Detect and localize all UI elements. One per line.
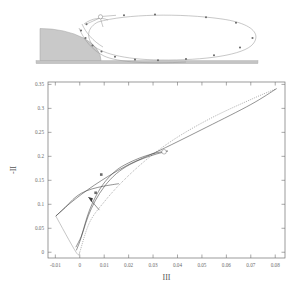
streamline-sample-markers <box>80 13 254 61</box>
data-marker-filled-square <box>100 173 103 176</box>
flow-field-inset <box>0 0 303 78</box>
y-tick-label: 0.2 <box>38 153 45 159</box>
x-tick-label: 0.02 <box>124 262 133 268</box>
vortex-spoke-down <box>101 19 103 27</box>
curve-trajectory-return-fan <box>56 184 119 216</box>
figure-root: -0.0100.010.020.030.040.050.060.070.08 0… <box>0 0 303 296</box>
vortex-center-marker <box>98 15 102 19</box>
y-tick-label: 0.35 <box>35 81 44 87</box>
annotations-layer <box>88 197 99 210</box>
x-tick-label: 0.01 <box>100 262 109 268</box>
inset-svg <box>0 0 303 78</box>
curve-trajectory-lower <box>76 151 167 250</box>
y-axis-label: -II <box>9 166 18 174</box>
y-axis-ticks: 00.050.10.150.20.250.30.35 <box>35 81 285 255</box>
ground-surface <box>36 61 258 64</box>
streamline-outer-loop <box>89 15 256 60</box>
data-marker-filled-square <box>94 191 97 194</box>
x-tick-label: 0.03 <box>149 262 158 268</box>
x-axis-label: III <box>163 273 171 282</box>
x-tick-label: 0.06 <box>222 262 231 268</box>
x-axis-ticks: -0.0100.010.020.030.040.050.060.070.08 <box>50 82 280 268</box>
invariant-map-svg: -0.0100.010.020.030.040.050.060.070.08 0… <box>0 72 303 296</box>
curve-two-component-boundary <box>56 216 80 255</box>
vortex-spoke-right <box>103 15 116 16</box>
x-tick-label: 0.05 <box>197 262 206 268</box>
invariant-map-panel: -0.0100.010.020.030.040.050.060.070.08 0… <box>0 72 303 296</box>
data-marker-open-circle <box>162 149 167 154</box>
x-tick-label: 0 <box>78 262 81 268</box>
bump-obstacle <box>40 29 101 61</box>
x-tick-label: 0.04 <box>173 262 182 268</box>
x-tick-label: -0.01 <box>50 262 61 268</box>
y-tick-label: 0.3 <box>38 105 45 111</box>
y-tick-label: 0 <box>41 249 44 255</box>
x-tick-label: 0.08 <box>271 262 280 268</box>
y-tick-label: 0.15 <box>35 177 44 183</box>
x-tick-label: 0.07 <box>246 262 255 268</box>
y-tick-label: 0.05 <box>35 225 44 231</box>
data-markers <box>94 149 166 194</box>
curve-axisymmetric-expansion-boundary <box>80 89 277 253</box>
data-curves <box>56 89 277 255</box>
y-tick-label: 0.1 <box>38 201 45 207</box>
y-tick-label: 0.25 <box>35 129 44 135</box>
plot-frame <box>48 82 285 258</box>
